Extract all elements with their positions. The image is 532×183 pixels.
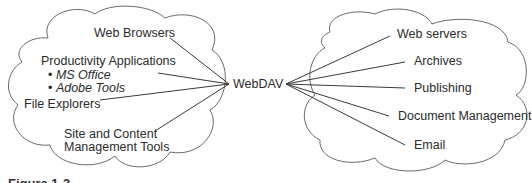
service-connection-lines: [286, 36, 405, 145]
label-archives: Archives: [414, 54, 462, 68]
label-productivity-applications: Productivity Applications: [41, 54, 176, 68]
bullet: •: [48, 68, 52, 82]
figure-caption: Figure 1-3: [8, 176, 70, 183]
label-ms-office: MS Office: [56, 68, 111, 82]
label-site-content-line1: Site and Content: [64, 127, 157, 141]
label-site-content-line2: Management Tools: [64, 140, 169, 154]
label-web-servers: Web servers: [397, 27, 467, 41]
hub-label-webdav: WebDAV: [233, 77, 283, 91]
bullet: •: [48, 81, 52, 95]
list-item-ms-office: • MS Office: [48, 68, 111, 82]
label-adobe-tools: Adobe Tools: [56, 81, 125, 95]
label-file-explorers: File Explorers: [24, 97, 100, 111]
label-web-browsers: Web Browsers: [94, 26, 175, 40]
label-document-management: Document Management: [398, 109, 531, 123]
label-email: Email: [414, 138, 445, 152]
label-publishing: Publishing: [414, 81, 472, 95]
list-item-adobe-tools: • Adobe Tools: [48, 81, 125, 95]
